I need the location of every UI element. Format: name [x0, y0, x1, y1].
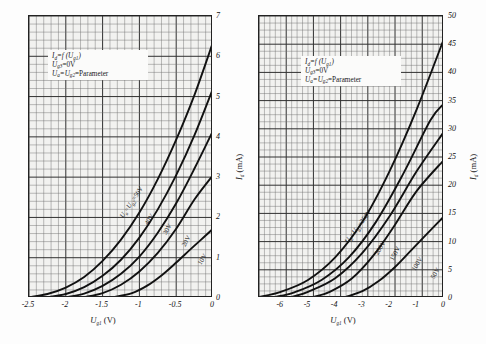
- legend-line-1: Id=f (Ug1): [52, 52, 144, 61]
- y-tick-label: 7: [216, 11, 220, 20]
- left-x-axis-title: Ug1 (V): [90, 315, 116, 325]
- x-tick-label: -2: [61, 300, 68, 309]
- right-x-axis-title: Ug1 (V): [330, 315, 356, 325]
- legend-line-2: Ug3=0V: [52, 61, 144, 70]
- y-tick-label: 35: [448, 95, 456, 104]
- x-tick-label: -1: [135, 300, 142, 309]
- legend-line-3: Ua=Ug2=Parameter: [305, 76, 397, 85]
- y-tick-label: 6: [216, 51, 220, 60]
- right-legend: Id=f (Ug1) Ug3=0V Ua=Ug2=Parameter: [301, 56, 401, 86]
- y-tick-label: 45: [448, 39, 456, 48]
- y-tick-label: 25: [448, 152, 456, 161]
- legend-line-1: Id=f (Ug1): [305, 58, 397, 67]
- x-tick-label: 0: [441, 300, 445, 309]
- y-tick-label: 10: [448, 236, 456, 245]
- x-tick-label: -6: [276, 300, 283, 309]
- left-panel: Id=f (Ug1) Ug3=0V Ua=Ug2=Parameter -2.5-…: [0, 0, 243, 344]
- x-tick-label: -2.5: [22, 300, 35, 309]
- left-legend: Id=f (Ug1) Ug3=0V Ua=Ug2=Parameter: [48, 50, 148, 80]
- y-tick-label: 0: [216, 293, 220, 302]
- right-panel: Id=f (Ug1) Ug3=0V Ua=Ug2=Parameter -6-5-…: [243, 0, 486, 344]
- x-tick-label: -5: [304, 300, 311, 309]
- y-tick-label: 50: [448, 11, 456, 20]
- figure-sheet: Id=f (Ug1) Ug3=0V Ua=Ug2=Parameter -2.5-…: [0, 0, 486, 344]
- x-tick-label: -3: [358, 300, 365, 309]
- x-tick-label: -1.5: [95, 300, 108, 309]
- legend-line-2: Ug3=0V: [305, 67, 397, 76]
- x-tick-label: 0: [210, 300, 214, 309]
- y-tick-label: 40: [448, 67, 456, 76]
- y-tick-label: 0: [448, 293, 452, 302]
- legend-line-3: Ua=Ug2=Parameter: [52, 70, 144, 79]
- y-tick-label: 5: [448, 264, 452, 273]
- y-tick-label: 15: [448, 208, 456, 217]
- y-tick-label: 3: [216, 172, 220, 181]
- y-tick-label: 1: [216, 252, 220, 261]
- y-tick-label: 5: [216, 91, 220, 100]
- y-tick-label: 20: [448, 180, 456, 189]
- x-tick-label: -1: [412, 300, 419, 309]
- y-tick-label: 2: [216, 212, 220, 221]
- right-y-axis-title: Id (mA): [468, 154, 478, 180]
- x-tick-label: -2: [385, 300, 392, 309]
- x-tick-label: -0.5: [169, 300, 182, 309]
- x-tick-label: -4: [331, 300, 338, 309]
- y-tick-label: 30: [448, 123, 456, 132]
- y-tick-label: 4: [216, 131, 220, 140]
